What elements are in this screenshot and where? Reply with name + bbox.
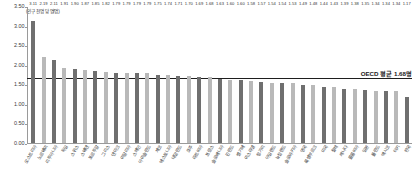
x-axis-category-label: 미국 [321, 145, 329, 154]
category-slot: 그리스 [101, 145, 111, 195]
bar: 1.75 [156, 75, 160, 144]
bar-value-label: 1.34 [372, 2, 380, 6]
bar-slot: 1.34 [381, 7, 391, 143]
bar-slot: 1.34 [370, 7, 380, 143]
bar-value-label: 1.68 [206, 2, 214, 6]
bar-value-label: 1.79 [143, 2, 151, 6]
bar-slot: 1.54 [267, 7, 277, 143]
bar-value-label: 1.91 [60, 2, 68, 6]
bar-value-label: 1.34 [392, 2, 400, 6]
bar-slot: 2.11 [49, 7, 59, 143]
bar: 1.39 [342, 89, 346, 143]
bar-value-label: 2.19 [40, 2, 48, 6]
bar: 1.74 [166, 75, 170, 143]
bar-value-label: 1.48 [309, 2, 317, 6]
bar-slot: 1.43 [329, 7, 339, 143]
bar: 2.11 [52, 60, 56, 143]
y-axis-tick-label: 0.50 [14, 122, 25, 127]
bar-slot: 1.79 [121, 7, 131, 143]
bar-slot: 1.35 [360, 7, 370, 143]
bar: 1.54 [280, 83, 284, 143]
bar-slot: 2.19 [38, 7, 48, 143]
category-slot: 에스토니아 [163, 145, 173, 195]
bar: 1.68 [208, 77, 212, 143]
bar-slot: 1.91 [59, 7, 69, 143]
bar: 1.53 [291, 83, 295, 143]
y-axis-tick-mark [25, 85, 27, 86]
bar: 1.63 [218, 79, 222, 143]
bar-slot: 1.38 [350, 7, 360, 143]
bar-slot: 1.44 [319, 7, 329, 143]
bar-value-label: 1.58 [247, 2, 255, 6]
bar-slot: 1.54 [277, 7, 287, 143]
bar-value-label: 1.71 [174, 2, 182, 6]
bar-slot: 1.58 [246, 7, 256, 143]
bar-slot: 1.34 [391, 7, 401, 143]
bar-value-label: 1.79 [123, 2, 131, 6]
bar-slot: 1.39 [339, 7, 349, 143]
plot-area: 0.000.501.001.502.002.503.003.50 OECD 평균… [27, 7, 412, 144]
bar-slot: 1.57 [256, 7, 266, 143]
bar-series: 3.112.192.111.911.901.871.851.821.791.79… [28, 7, 412, 143]
y-axis-tick-label: 3.00 [14, 24, 25, 29]
bar: 1.43 [332, 87, 336, 143]
category-slot: 룩셈부르크 [308, 145, 318, 195]
y-axis-tick-mark [25, 144, 27, 145]
x-axis-category-label: 오스트리아 [24, 145, 38, 165]
category-slot: 미국 [319, 145, 329, 195]
bar: 1.38 [353, 89, 357, 143]
category-slot: 벨기에 [236, 145, 246, 195]
bar: 1.79 [114, 73, 118, 143]
bar-chart: (인구 천명 당 명/명) 0.000.501.001.502.002.503.… [0, 0, 417, 195]
y-axis-tick-label: 2.00 [14, 63, 25, 68]
bar-value-label: 1.60 [226, 2, 234, 6]
bar: 1.85 [93, 71, 97, 143]
bar-slot: 1.90 [70, 7, 80, 143]
bar: 1.60 [228, 80, 232, 143]
x-axis-category-label: 폴란드 [371, 145, 381, 158]
bar-value-label: 3.11 [29, 2, 37, 6]
x-axis-category-label: 일본 [362, 145, 370, 154]
bar-value-label: 1.43 [330, 2, 338, 6]
bar-slot: 1.79 [111, 7, 121, 143]
category-slot: 헝가리 [256, 145, 266, 195]
bar-value-label: 1.70 [185, 2, 193, 6]
category-slot: 스페인 [132, 145, 142, 195]
category-slot: 핀란드 [225, 145, 235, 195]
x-axis-category-label: 호주 [186, 145, 194, 154]
bar: 1.69 [197, 77, 201, 143]
y-axis-tick-mark [25, 46, 27, 47]
bar: 1.34 [374, 91, 378, 143]
x-axis-category-label: 스위스 [70, 145, 80, 158]
bar-value-label: 1.74 [164, 2, 172, 6]
bar: 1.87 [83, 70, 87, 143]
bar-value-label: 1.85 [91, 2, 99, 6]
category-slot: 멕시코 [381, 145, 391, 195]
bar-value-label: 1.87 [81, 2, 89, 6]
bar: 1.57 [259, 82, 263, 143]
bar: 1.82 [104, 72, 108, 143]
bar: 1.60 [239, 80, 243, 143]
bar: 1.79 [135, 73, 139, 143]
bar-value-label: 1.38 [351, 2, 359, 6]
bar-value-label: 1.53 [289, 2, 297, 6]
category-slot: 뉴질랜드 [277, 145, 287, 195]
bar-value-label: 1.79 [133, 2, 141, 6]
x-axis-category-label: 체코 [155, 145, 163, 154]
x-axis-category-label: 독일 [61, 145, 69, 154]
category-slot: 아이슬란드 [142, 145, 152, 195]
category-slot: 일본 [360, 145, 370, 195]
bar: 1.48 [311, 85, 315, 143]
category-slot: 스웨덴 [80, 145, 90, 195]
x-axis-category-label: 콜롬비아 [348, 145, 360, 161]
bar: 1.49 [301, 85, 305, 143]
category-slot: 덴마크 [111, 145, 121, 195]
category-slot: 한국 [402, 145, 412, 195]
category-slot: 스위스 [70, 145, 80, 195]
bar-slot: 1.60 [225, 7, 235, 143]
x-axis-category-label: 멕시코 [381, 145, 391, 158]
x-axis-category-label: 핀란드 [225, 145, 235, 158]
category-slot: 콜롬비아 [350, 145, 360, 195]
bar-value-label: 1.57 [257, 2, 265, 6]
bar: 1.34 [384, 91, 388, 143]
